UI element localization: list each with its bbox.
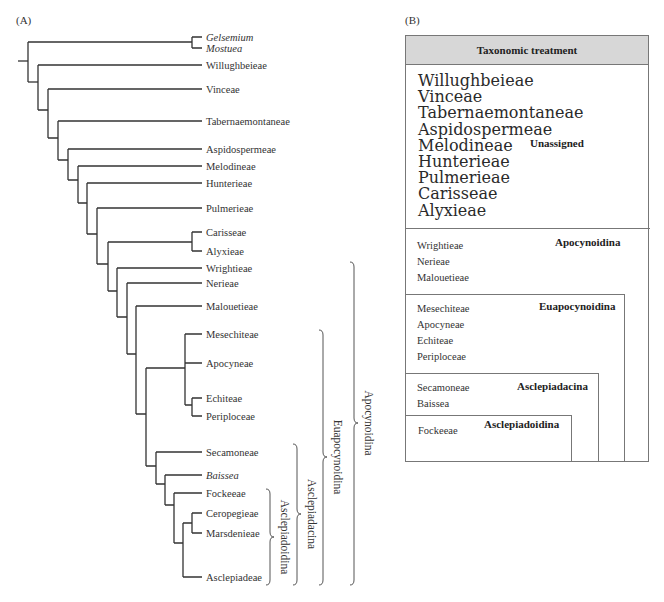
leaf-label: Gelsemium xyxy=(206,32,254,43)
member-item: Wrightieae xyxy=(417,238,469,254)
member-item: Mesechiteae xyxy=(417,301,469,317)
leaf-label: Tabernaemontaneae xyxy=(206,116,290,127)
group-title-euapocynoidina: Euapocynoidina xyxy=(539,300,615,312)
tree-branches xyxy=(18,37,202,577)
clade-label-apocynoidina: Apocynoidina xyxy=(362,390,375,455)
table-header: Taxonomic treatment xyxy=(406,36,648,65)
leaf-label: Secamoneae xyxy=(206,447,259,458)
group-members: Secamoneae Baissea xyxy=(417,380,469,412)
leaf-label: Periploceae xyxy=(206,411,255,422)
leaf-label: Ceropegieae xyxy=(206,508,259,519)
leaf-label: Wrightieae xyxy=(206,263,253,274)
leaf-label: Melodineae xyxy=(206,161,256,172)
leaf-label: Marsdenieae xyxy=(206,528,260,539)
member-item: Periploceae xyxy=(417,349,469,365)
leaf-label: Pulmerieae xyxy=(206,203,254,214)
leaf-label: Asclepiadeae xyxy=(206,572,262,583)
asclepiadoidina-lower xyxy=(405,461,649,462)
leaf-label: Nerieae xyxy=(206,278,239,289)
brace-euapocynoidina xyxy=(319,330,327,585)
leaf-label: Fockeeae xyxy=(206,488,246,499)
clade-label-euapocynoidina: Euapocynoidina xyxy=(331,420,344,495)
leaf-label: Hunterieae xyxy=(206,178,252,189)
brace-asclepiadoidina xyxy=(266,489,274,585)
leaf-label: Alyxieae xyxy=(206,246,244,257)
leaf-label: Mesechiteae xyxy=(206,329,259,340)
leaf-label: Willughbeieae xyxy=(206,60,267,71)
group-unassigned: Willughbeieae Vinceae Tabernaemontaneae … xyxy=(406,65,648,230)
member-item: Alyxieae xyxy=(418,203,584,219)
member-item: Nerieae xyxy=(417,254,469,270)
member-item: Malouetieae xyxy=(417,270,469,286)
clade-labels: Asclepiadoidina Asclepiadacina Euapocyno… xyxy=(278,390,375,574)
group-members: Wrightieae Nerieae Malouetieae xyxy=(417,238,469,286)
clade-label-asclepiadacina: Asclepiadacina xyxy=(305,479,318,549)
leaf-label: Echiteae xyxy=(206,393,242,404)
clade-label-asclepiadoidina: Asclepiadoidina xyxy=(278,500,291,575)
group-members: Fockeeae xyxy=(418,423,458,439)
leaf-labels: Gelsemium Mostuea Willughbeieae Vinceae … xyxy=(205,32,290,583)
brace-apocynoidina xyxy=(350,262,358,585)
group-title-unassigned: Unassigned xyxy=(530,137,584,149)
member-item: Secamoneae xyxy=(417,380,469,396)
leaf-label: Vinceae xyxy=(206,84,240,95)
leaf-label: Aspidospermeae xyxy=(206,144,276,155)
brace-asclepiadacina xyxy=(293,444,301,585)
member-item: Baissea xyxy=(417,396,469,412)
panel-b-label: (B) xyxy=(405,14,420,26)
group-members: Mesechiteae Apocyneae Echiteae Periploce… xyxy=(417,301,469,365)
group-title-apocynoidina: Apocynoidina xyxy=(555,236,620,248)
leaf-label: Carisseae xyxy=(206,227,247,238)
member-item: Apocyneae xyxy=(417,317,469,333)
taxonomic-treatment-table: Taxonomic treatment Willughbeieae Vincea… xyxy=(405,35,649,462)
leaf-label: Malouetieae xyxy=(206,301,258,312)
leaf-label: Mostuea xyxy=(205,43,242,54)
group-title-asclepiadoidina: Asclepiadoidina xyxy=(484,418,559,430)
leaf-label: Baissea xyxy=(206,470,239,481)
member-item: Echiteae xyxy=(417,333,469,349)
member-item: Fockeeae xyxy=(418,423,458,439)
group-title-asclepiadacina: Asclepiadacina xyxy=(517,380,588,392)
leaf-label: Apocyneae xyxy=(206,358,254,369)
phylogenetic-tree: Gelsemium Mostuea Willughbeieae Vinceae … xyxy=(0,0,400,602)
